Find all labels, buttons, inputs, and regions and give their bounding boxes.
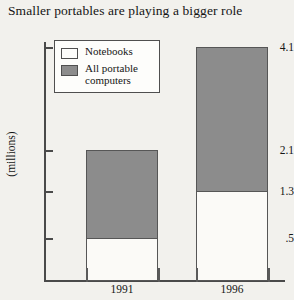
y-axis-line <box>44 42 46 282</box>
y-tick-mark-1-3 <box>46 191 53 193</box>
y-tick-mark-2-1 <box>46 150 53 152</box>
y-tick-mark-4-1 <box>46 47 53 49</box>
legend-label-all-portable-computers: All portable computers <box>85 63 138 86</box>
x-tick-mark-1991-left <box>86 268 88 282</box>
x-tick-mark-1991-right <box>158 268 160 282</box>
chart-container: Smaller portables are playing a bigger r… <box>0 0 294 300</box>
legend-label-line-2: computers <box>85 74 131 86</box>
legend-label-notebooks: Notebooks <box>85 46 133 58</box>
legend-swatch-white-icon <box>61 48 78 59</box>
legend-item-notebooks: Notebooks <box>61 46 159 59</box>
chart-title: Smaller portables are playing a bigger r… <box>8 3 242 19</box>
x-tick-label-1991: 1991 <box>84 283 160 295</box>
bar-1996-notebooks-segment <box>196 191 268 281</box>
bar-1996-all-portable-segment <box>196 47 268 192</box>
legend-label-line-1: All portable <box>85 62 138 74</box>
chart-legend: Notebooks All portable computers <box>54 40 160 93</box>
legend-swatch-gray-icon <box>61 65 78 76</box>
x-tick-label-1996: 1996 <box>194 283 270 295</box>
y-axis-title: (millions) <box>5 112 17 196</box>
bar-1991-notebooks-segment <box>86 238 158 281</box>
x-tick-mark-1996-left <box>196 268 198 282</box>
legend-item-all-portable-computers: All portable computers <box>61 63 159 86</box>
y-tick-mark-0-5 <box>46 238 53 240</box>
bar-1991-all-portable-segment <box>86 150 158 239</box>
x-tick-mark-1996-right <box>268 268 270 282</box>
